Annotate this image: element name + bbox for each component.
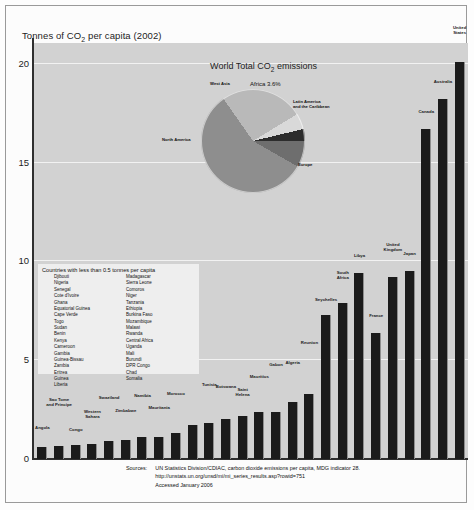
y-axis-tick-label: 20: [18, 57, 29, 68]
bar-label: Mauritania: [148, 406, 170, 411]
bar: [37, 447, 47, 459]
bar-label: Canada: [419, 110, 435, 115]
pie-title-pre: World Total CO: [210, 61, 271, 71]
low-emitters-textbox: Countries with less than 0.5 tonnes per …: [38, 264, 199, 374]
bar-label: Libya: [354, 254, 365, 259]
bar: [321, 315, 331, 459]
source-line-2: http://unstats.un.org/unsd/mi/mi_series_…: [155, 472, 360, 480]
pie-label-north-america: North America: [162, 137, 191, 142]
bar-label: Morocco: [167, 392, 185, 397]
source-line-1: UN Statistics Division/CDIAC, carbon dio…: [155, 464, 360, 472]
bar-label: Zimbabwe: [115, 409, 136, 414]
bar-label: Japan: [403, 252, 415, 257]
pie-label-africa: Africa 3.6%: [250, 81, 281, 88]
page-title-post: per capita (2002): [85, 30, 161, 41]
y-axis-tick-label: 5: [24, 354, 29, 365]
chart-frame: Tonnes of CO2 per capita (2002) 05101520…: [5, 5, 467, 503]
bar: [121, 440, 131, 459]
low-emitters-title: Countries with less than 0.5 tonnes per …: [42, 267, 195, 273]
pie-chart-block: World Total CO2 emissions West Asia Afri…: [176, 61, 351, 211]
bar-label: Australia: [434, 80, 452, 85]
bar-label: Algeria: [285, 361, 300, 366]
bar-label: France: [369, 314, 383, 319]
bar: [421, 129, 431, 459]
bar-label: Gabon: [269, 363, 283, 368]
bar-label: SaintHelena: [236, 388, 250, 398]
bar-label: Reunion: [301, 341, 318, 346]
low-emitter-country: Somalia: [126, 376, 192, 382]
low-emitters-columns: DjiboutiNigeriaSenegalCote d'IvoireGhana…: [42, 274, 195, 389]
bar: [254, 412, 264, 459]
bar: [104, 441, 114, 459]
bar-label: Congo: [69, 428, 83, 433]
pie-label-latin-america: Latin Americaand the Caribbean: [293, 99, 330, 109]
y-axis-ticks: 05101520: [6, 6, 29, 510]
y-axis-tick-label: 15: [18, 156, 29, 167]
bar: [288, 402, 298, 459]
bar: [338, 303, 348, 459]
bar: [221, 419, 231, 459]
pie-chart-title: World Total CO2 emissions: [210, 61, 317, 73]
bar: [154, 437, 164, 459]
bar-label: Tunisia: [202, 383, 217, 388]
pie-label-latin-america-line2: and the Caribbean: [293, 104, 330, 109]
bar-label: Angola: [35, 426, 50, 431]
bar-label: UnitedStates: [453, 26, 466, 36]
bar: [405, 271, 415, 459]
bar: [271, 412, 281, 459]
bar: [54, 446, 64, 459]
bar: [455, 62, 465, 459]
bar: [188, 425, 198, 459]
pie-label-west-asia: West Asia: [210, 81, 230, 86]
bar-label: WesternSahara: [84, 410, 101, 420]
source-lines: UN Statistics Division/CDIAC, carbon dio…: [155, 464, 360, 489]
page-title: Tonnes of CO2 per capita (2002): [22, 30, 162, 43]
bar: [354, 273, 364, 459]
y-axis-tick-label: 10: [18, 255, 29, 266]
bar: [137, 437, 147, 459]
pie-label-europe: Europe: [298, 162, 312, 167]
bar: [238, 416, 248, 459]
bar-label: Swaziland: [99, 396, 120, 401]
low-emitters-column-1: DjiboutiNigeriaSenegalCote d'IvoireGhana…: [54, 274, 120, 389]
bar-label: UnitedKingdom: [384, 243, 403, 253]
low-emitter-country: Liberia: [54, 382, 120, 388]
pie-chart: [201, 89, 305, 193]
low-emitters-column-2: MadagascarSierra LeoneComorosNigerTanzan…: [126, 274, 192, 389]
bar-label: SouthAfrica: [337, 271, 349, 281]
y-axis-tick-label: 0: [24, 453, 29, 464]
bar: [371, 333, 381, 459]
chart-page: Tonnes of CO2 per capita (2002) 05101520…: [0, 0, 474, 510]
pie-title-post: emissions: [274, 61, 317, 71]
bar: [204, 423, 214, 459]
source-footer: Sources: UN Statistics Division/CDIAC, c…: [126, 464, 466, 489]
source-label: Sources:: [126, 464, 147, 489]
bar: [71, 445, 81, 459]
bar: [438, 99, 448, 459]
bar-label: Namibia: [134, 394, 151, 399]
bar-label: Sao Tomeand Principe: [46, 398, 72, 408]
page-title-pre: Tonnes of CO: [22, 30, 81, 41]
bar: [171, 433, 181, 459]
bar-label: Seychelles: [315, 298, 337, 303]
bar: [304, 394, 314, 459]
bar-label: Botswana: [216, 385, 236, 390]
bar-label: Mauritius: [250, 375, 269, 380]
bar: [87, 444, 97, 459]
bar: [388, 277, 398, 459]
source-line-3: Accessed January 2006: [155, 481, 360, 489]
